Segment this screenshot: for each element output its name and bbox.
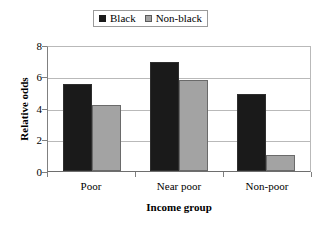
- x-tick-label-near-poor: Near poor: [134, 180, 224, 192]
- legend-entry-black: Black: [99, 13, 136, 24]
- x-tick-mark-1: [135, 172, 136, 177]
- bar-chart: Black Non-black 8 6 4 2 0: [0, 0, 332, 229]
- bar-black-non-poor: [237, 94, 266, 171]
- bar-non-black-non-poor: [266, 155, 295, 171]
- x-tick-mark-0: [47, 172, 48, 177]
- legend-label-black: Black: [110, 13, 136, 24]
- y-axis-title: Relative odds: [18, 49, 30, 169]
- legend-swatch-non-black-icon: [145, 15, 152, 22]
- legend-label-non-black: Non-black: [156, 13, 202, 24]
- bar-non-black-near-poor: [179, 80, 208, 171]
- bar-group-near-poor: [150, 47, 208, 171]
- x-tick-label-poor: Poor: [46, 180, 136, 192]
- x-tick-mark-2: [223, 172, 224, 177]
- x-tick-label-non-poor: Non-poor: [222, 180, 312, 192]
- bar-black-near-poor: [150, 62, 179, 171]
- bar-group-poor: [63, 47, 121, 171]
- bar-non-black-poor: [92, 105, 121, 171]
- legend-entry-non-black: Non-black: [145, 13, 202, 24]
- chart-legend: Black Non-black: [93, 10, 208, 27]
- plot-area: [47, 46, 311, 172]
- x-tick-mark-3: [311, 172, 312, 177]
- x-axis-title: Income group: [47, 201, 311, 213]
- legend-swatch-black-icon: [99, 15, 106, 22]
- bars-layer: [48, 47, 310, 171]
- bar-black-poor: [63, 84, 92, 171]
- bar-group-non-poor: [237, 47, 295, 171]
